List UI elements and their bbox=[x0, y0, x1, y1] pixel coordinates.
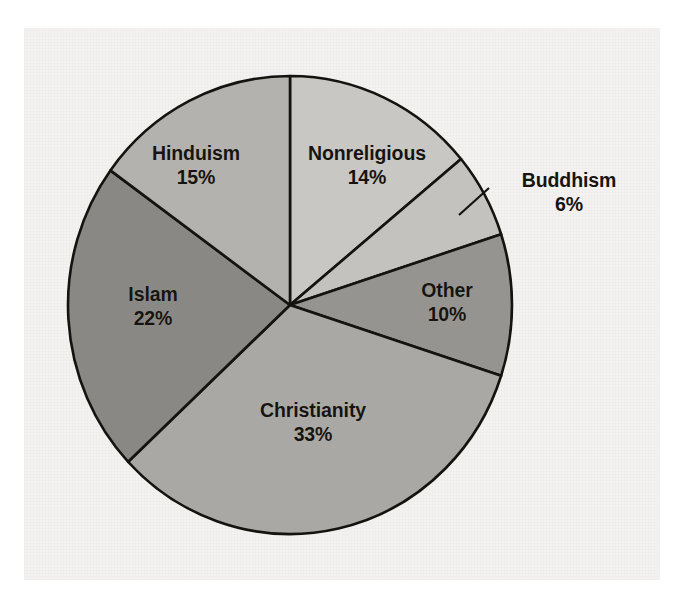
pie-label-christianity-value: 33% bbox=[230, 423, 396, 447]
pie-label-christianity-name: Christianity bbox=[230, 399, 396, 423]
pie-label-buddhism-name: Buddhism bbox=[494, 169, 644, 193]
pie-chart-figure: Hinduism 15% Nonreligious 14% Buddhism 6… bbox=[0, 0, 680, 602]
pie-label-islam: Islam 22% bbox=[98, 283, 208, 331]
pie-label-islam-value: 22% bbox=[98, 307, 208, 331]
pie-label-hinduism-value: 15% bbox=[118, 166, 274, 190]
pie-label-nonreligious-name: Nonreligious bbox=[283, 142, 451, 166]
pie-label-nonreligious-value: 14% bbox=[283, 166, 451, 190]
pie-label-other: Other 10% bbox=[392, 279, 502, 327]
pie-label-christianity: Christianity 33% bbox=[230, 399, 396, 447]
pie-label-other-name: Other bbox=[392, 279, 502, 303]
pie-label-islam-name: Islam bbox=[98, 283, 208, 307]
pie-label-hinduism: Hinduism 15% bbox=[118, 142, 274, 190]
pie-label-hinduism-name: Hinduism bbox=[118, 142, 274, 166]
pie-label-other-value: 10% bbox=[392, 303, 502, 327]
pie-label-nonreligious: Nonreligious 14% bbox=[283, 142, 451, 190]
pie-label-buddhism-value: 6% bbox=[494, 193, 644, 217]
pie-label-buddhism: Buddhism 6% bbox=[494, 169, 644, 217]
